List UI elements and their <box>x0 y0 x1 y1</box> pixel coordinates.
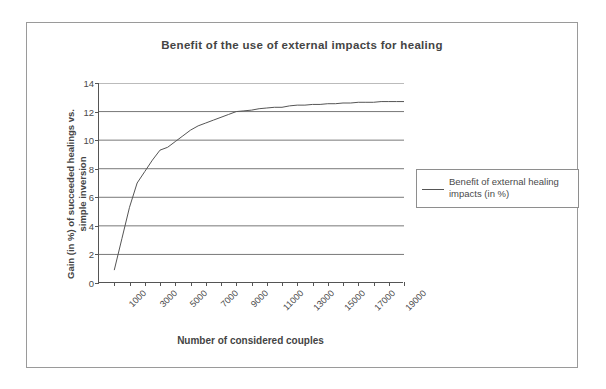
y-tick-label: 8 <box>89 163 94 174</box>
x-tick-mark <box>160 282 161 286</box>
x-tick-label: 15000 <box>342 288 367 313</box>
x-tick-label: 7000 <box>219 288 240 309</box>
y-tick-mark <box>95 254 99 255</box>
x-tick-label: 5000 <box>188 288 209 309</box>
x-tick-mark <box>282 282 283 286</box>
y-tick-label: 2 <box>89 249 94 260</box>
x-tick-mark <box>130 282 131 286</box>
x-tick-label: 17000 <box>373 288 398 313</box>
y-axis-title-line-1: Gain (in %) of succeeded healings vs. <box>65 79 77 309</box>
y-tick-mark <box>95 169 99 170</box>
x-tick-mark <box>221 282 222 286</box>
x-tick-mark <box>343 282 344 286</box>
y-tick-mark <box>95 226 99 227</box>
x-tick-mark <box>374 282 375 286</box>
x-tick-label: 3000 <box>158 288 179 309</box>
x-tick-mark <box>191 282 192 286</box>
y-tick-label: 6 <box>89 192 94 203</box>
y-tick-mark <box>95 197 99 198</box>
y-tick-label: 0 <box>89 278 94 289</box>
y-tick-label: 10 <box>83 135 94 146</box>
x-tick-mark <box>252 282 253 286</box>
plot-canvas <box>99 83 404 283</box>
x-tick-mark <box>175 282 176 286</box>
x-tick-mark <box>267 282 268 286</box>
plot-area: 14121086420 1000300050007000900011000130… <box>98 83 403 283</box>
x-tick-label: 11000 <box>281 288 305 312</box>
x-tick-label: 13000 <box>312 288 337 313</box>
legend-item-label: Benefit of external healing impacts (in … <box>449 176 573 200</box>
chart-legend: Benefit of external healing impacts (in … <box>416 169 579 208</box>
chart-frame: Benefit of the use of external impacts f… <box>26 22 578 368</box>
x-tick-mark <box>145 282 146 286</box>
legend-item: Benefit of external healing impacts (in … <box>422 176 573 200</box>
y-tick-mark <box>95 140 99 141</box>
legend-line-swatch <box>422 180 444 190</box>
x-tick-label: 19000 <box>403 288 428 313</box>
y-tick-label: 4 <box>89 220 94 231</box>
y-tick-label: 14 <box>83 78 94 89</box>
x-tick-mark <box>404 282 405 286</box>
chart-title: Benefit of the use of external impacts f… <box>27 39 577 51</box>
y-tick-mark <box>95 283 99 284</box>
x-tick-mark <box>358 282 359 286</box>
y-tick-mark <box>95 112 99 113</box>
y-tick-label: 12 <box>83 106 94 117</box>
y-tick-mark <box>95 83 99 84</box>
x-tick-mark <box>313 282 314 286</box>
x-tick-label: 9000 <box>249 288 270 309</box>
x-tick-mark <box>114 282 115 286</box>
series-line <box>114 102 404 271</box>
x-tick-mark <box>389 282 390 286</box>
x-tick-mark <box>236 282 237 286</box>
series-lines <box>114 102 404 271</box>
x-tick-mark <box>328 282 329 286</box>
x-axis-title: Number of considered couples <box>98 335 403 346</box>
x-tick-label: 1000 <box>127 288 148 309</box>
x-tick-mark <box>297 282 298 286</box>
gridlines <box>99 83 404 254</box>
x-tick-mark <box>206 282 207 286</box>
